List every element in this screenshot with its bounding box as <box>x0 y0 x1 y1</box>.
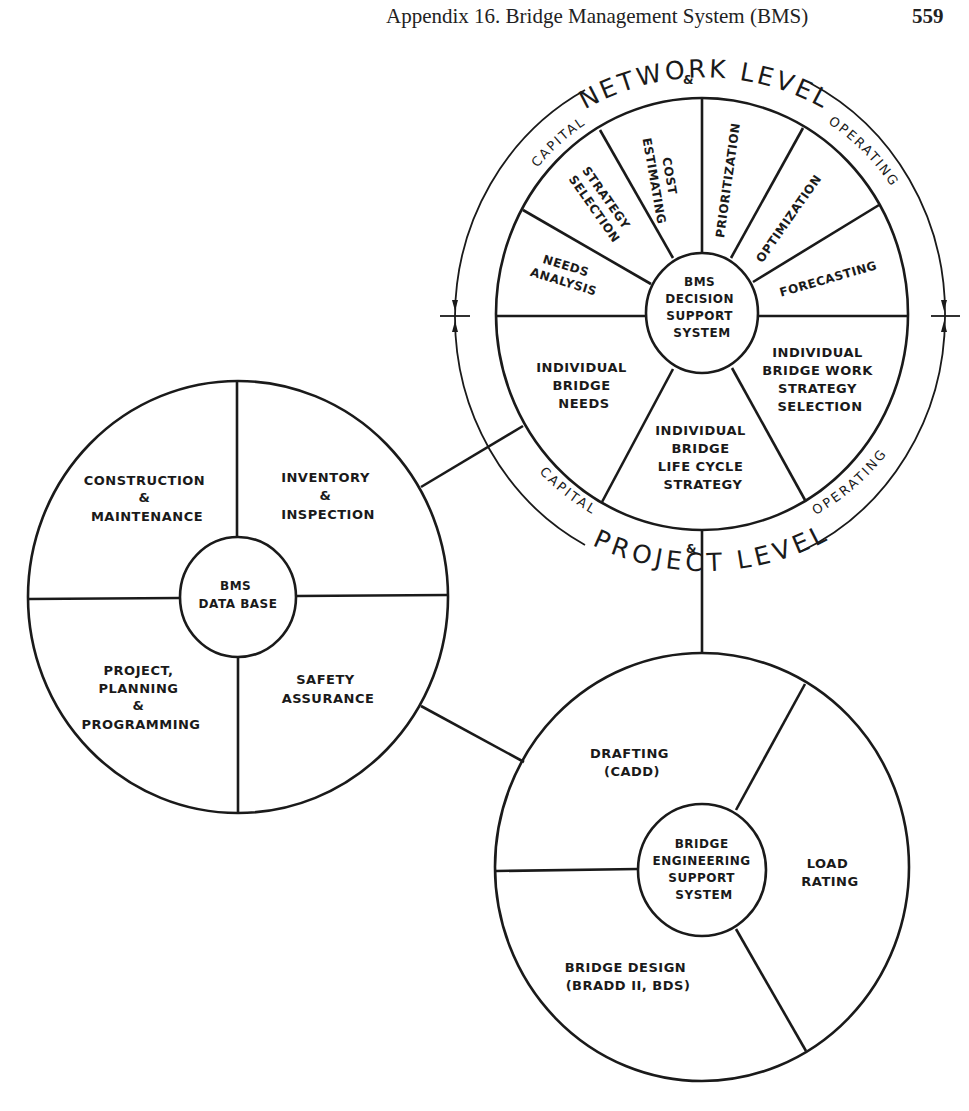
sector-prioritization: PRIORITIZATION <box>713 122 743 239</box>
sector-individual-bridge-life-cycle-strategy: INDIVIDUAL BRIDGE LIFE CYCLE STRATEGY <box>655 423 751 492</box>
quadrant-inventory-inspection: INVENTORY & INSPECTION <box>281 470 375 522</box>
sector-individual-bridge-needs: INDIVIDUAL BRIDGE NEEDS <box>536 360 632 411</box>
decision-support-wheel: BMS DECISION SUPPORT SYSTEM NETWORK LEVE… <box>440 54 960 577</box>
sector-bridge-design: BRIDGE DESIGN (BRADD II, BDS) <box>565 960 692 993</box>
project-capital-label: CAPITAL <box>537 464 600 517</box>
arrow-down-right-icon <box>941 300 947 311</box>
sector-individual-bridge-work-strategy-selection: INDIVIDUAL BRIDGE WORK STRATEGY SELECTIO… <box>762 345 878 414</box>
database-hub-label: BMS DATA BASE <box>199 579 278 611</box>
sector-forecasting: FORECASTING <box>778 258 879 299</box>
arrow-up-right-icon <box>941 321 947 332</box>
sector-load-rating: LOAD RATING <box>801 856 858 889</box>
arrow-up-left-icon <box>452 321 458 332</box>
database-wheel: BMS DATA BASE CONSTRUCTION & MAINTENANCE… <box>28 381 448 813</box>
engineering-divider-left <box>496 869 638 871</box>
sector-drafting-cadd: DRAFTING (CADD) <box>590 746 674 779</box>
quadrant-safety-assurance: SAFETY ASSURANCE <box>282 672 375 706</box>
engineering-hub <box>638 804 766 936</box>
quadrant-construction-maintenance: CONSTRUCTION & MAINTENANCE <box>84 473 210 524</box>
database-divider-left <box>28 598 180 599</box>
network-amp-label: & <box>683 73 694 87</box>
decision-hub-label: BMS DECISION SUPPORT SYSTEM <box>665 275 738 340</box>
engineering-divider-upper <box>736 684 805 810</box>
arrow-down-left-icon <box>452 300 458 311</box>
bms-diagram: BMS DECISION SUPPORT SYSTEM NETWORK LEVE… <box>0 0 969 1111</box>
quadrant-project-planning-programming: PROJECT, PLANNING & PROGRAMMING <box>81 663 200 732</box>
network-level-title: NETWORK LEVEL <box>574 54 836 115</box>
database-divider-right <box>296 595 448 596</box>
sector-needs-analysis: NEEDS ANALYSIS <box>529 250 604 299</box>
project-level-title: PROJECT LEVEL <box>589 518 833 577</box>
engineering-wheel: BRIDGE ENGINEERING SUPPORT SYSTEM DRAFTI… <box>495 653 909 1081</box>
sector-optimization: OPTIMIZATION <box>753 172 824 265</box>
connector-database-to-engineering <box>421 706 524 762</box>
engineering-divider-lower <box>736 929 806 1051</box>
project-operating-label: OPERATING <box>810 446 890 518</box>
project-amp-label: & <box>686 542 697 556</box>
engineering-hub-label: BRIDGE ENGINEERING SUPPORT SYSTEM <box>653 837 756 902</box>
